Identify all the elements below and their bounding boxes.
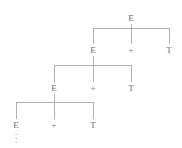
tree-node-L2-E: E bbox=[47, 84, 61, 93]
vertical-ellipsis-icon: . . . bbox=[11, 130, 21, 142]
edge-bar3-to-child-E bbox=[16, 102, 17, 119]
edge-bar3-to-child-plus bbox=[54, 102, 55, 119]
tree-node-L1-plus: + bbox=[124, 46, 138, 55]
edge-bar1-to-child-T bbox=[169, 28, 170, 44]
edge-bar2-to-child-T bbox=[131, 65, 132, 82]
edge-bar1-to-child-plus bbox=[131, 28, 132, 44]
ellipsis-dot-3: . bbox=[11, 138, 21, 142]
tree-node-L2-T: T bbox=[124, 84, 138, 93]
tree-node-L1-T: T bbox=[162, 46, 176, 55]
edge-bar2-to-child-plus bbox=[93, 65, 94, 82]
edge-bar3-to-child-T bbox=[93, 102, 94, 119]
edge-bar1-to-child-E bbox=[93, 28, 94, 44]
tree-node-L3-T: T bbox=[86, 121, 100, 130]
edge-bar2-to-child-E bbox=[54, 65, 55, 82]
tree-node-L2-plus: + bbox=[86, 84, 100, 93]
tree-node-root-E: E bbox=[124, 14, 138, 23]
parse-tree-figure: E E + T E + T E + T . . . bbox=[0, 0, 182, 148]
tree-node-L3-plus: + bbox=[47, 121, 61, 130]
tree-node-L1-E: E bbox=[86, 46, 100, 55]
